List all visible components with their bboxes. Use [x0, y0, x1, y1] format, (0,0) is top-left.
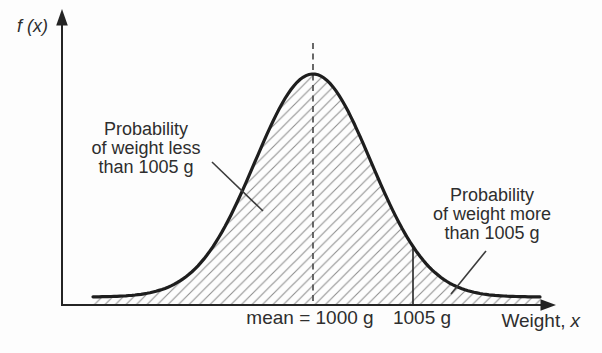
tick-label-mean: mean = 1000 g [246, 307, 373, 328]
normal-distribution-figure: f (x) Probability of weight less than 10… [0, 0, 602, 353]
normal-distribution-chart: f (x) Probability of weight less than 10… [0, 0, 602, 353]
x-axis-label: Weight,x [501, 310, 581, 331]
x-axis-label-variable: x [570, 310, 582, 331]
y-axis-label: f (x) [17, 16, 48, 36]
annotation-right-line2: of weight more [433, 204, 551, 224]
leader-line-right [451, 251, 486, 294]
annotation-right-line1: Probability [450, 185, 534, 205]
annotation-left-line2: of weight less [91, 138, 200, 158]
y-axis-arrowhead [56, 9, 68, 26]
annotation-left-line1: Probability [104, 119, 188, 139]
x-axis-label-prefix: Weight, [501, 310, 565, 331]
tick-label-cutoff: 1005 g [393, 307, 451, 328]
annotation-left-line3: than 1005 g [98, 157, 193, 177]
annotation-right-line3: than 1005 g [444, 223, 539, 243]
